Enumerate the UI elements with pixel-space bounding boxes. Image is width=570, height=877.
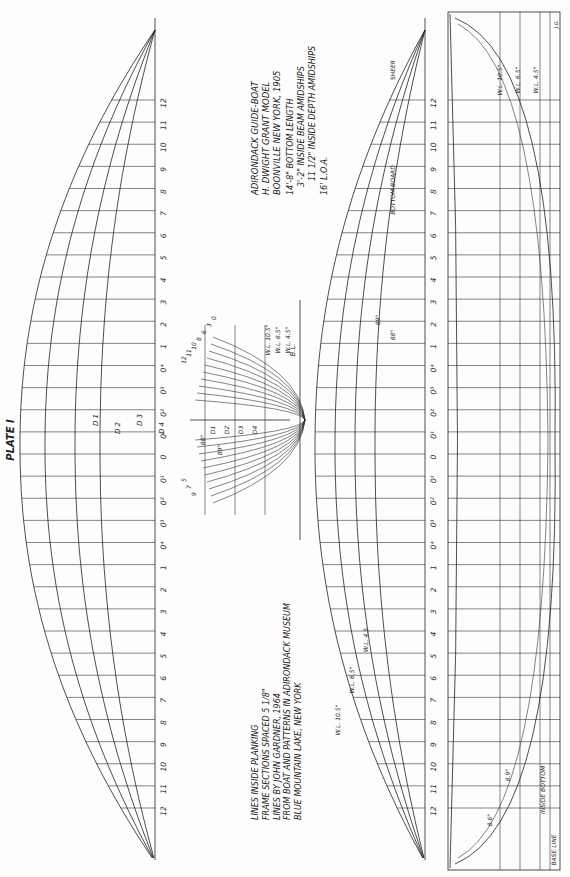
station-label: 4 [429, 631, 438, 636]
station-label: 11 [159, 120, 168, 130]
diagonal-label: D4 [251, 426, 258, 435]
angle-label: 8.6° [486, 814, 493, 827]
station-label: 10 [159, 142, 168, 152]
station-label: 7 [159, 211, 168, 216]
diagonal-label: D 3 [136, 414, 144, 426]
station-label: 0³ [159, 387, 168, 395]
station-label: 5 [429, 255, 438, 260]
waterline-label: W.L. 4.5" [532, 66, 539, 93]
title-line: 11 1/2" INSIDE DEPTH AMIDSHIPS [308, 46, 317, 181]
station-label: 10 [429, 142, 438, 152]
station-label: 4 [429, 277, 438, 282]
waterline-label: W.L. 10.5" [264, 324, 271, 355]
station-label: 11 [429, 784, 438, 794]
waterline-label: W.L. 10.5" [334, 704, 341, 735]
title-line: H. DWIGHT GRANT MODEL [261, 81, 271, 195]
station-label: 10 [429, 762, 438, 772]
notes-line: FROM BOAT AND PATTERNS IN ADIRONDACK MUS… [283, 603, 292, 820]
station-label: 4 [159, 277, 168, 282]
station-label: 12 [159, 98, 168, 108]
station-label: 1 [159, 565, 168, 570]
profile-frame [448, 12, 560, 870]
station-label: 6 [429, 233, 438, 238]
station-label: 5 [159, 654, 168, 659]
station-label: 0¹ [159, 431, 168, 439]
diagonal-label: D2 [223, 426, 230, 435]
station-label: 0³ [429, 519, 438, 527]
body-station-label: 6 [200, 330, 207, 334]
station-label: 8 [429, 189, 438, 194]
station-label: 0⁴ [429, 365, 438, 373]
station-label: 7 [159, 698, 168, 703]
base-line-label: BASE LINE [550, 834, 557, 865]
waterline-curve [375, 30, 425, 858]
station-label: 6 [159, 676, 168, 681]
station-label: 12 [429, 98, 438, 108]
angle-label: 8.9° [504, 769, 511, 782]
angle-label: 88° [199, 435, 206, 446]
station-label: 0¹ [429, 475, 438, 483]
station-label: 0² [429, 497, 438, 505]
station-label: 0³ [159, 519, 168, 527]
notes-block: LINES INSIDE PLANKING FRAME SECTIONS SPA… [251, 603, 303, 820]
lines-drawing-sheet: PLATE I D 1D 2D 3D 4 D1D2D3D488°89°W.L. … [0, 0, 570, 877]
station-label: 2 [429, 587, 438, 592]
body-station-label: 5 [180, 478, 187, 482]
angle-label: 88° [389, 330, 396, 341]
sheer-line [450, 14, 458, 868]
station-label: 7 [429, 211, 438, 216]
body-plan: D1D2D3D488°89°W.L. 10.5"W.L. 6.5"W.L. 4.… [180, 300, 305, 540]
station-label: 0² [429, 409, 438, 417]
station-label: 0⁴ [429, 542, 438, 550]
half-breadth-plan-upper: D 1D 2D 3D 4 [20, 18, 166, 860]
station-label: 2 [429, 322, 438, 327]
station-label: 0⁴ [159, 365, 168, 373]
station-label: 0 [159, 454, 168, 459]
body-station-label: 7 [185, 485, 192, 489]
station-label: 6 [429, 676, 438, 681]
station-label: 0³ [429, 387, 438, 395]
station-label: 4 [159, 631, 168, 636]
body-station-label: 0 [210, 316, 217, 320]
notes-line: LINES BY JOHN GARDNER, 1964 [273, 693, 282, 820]
station-label: 2 [159, 587, 168, 592]
bottom-board-label: BOTTOM BOARD [389, 165, 396, 215]
body-station-label: 10 [190, 342, 197, 350]
notes-line: BLUE MOUNTAIN LAKE, NEW YORK [294, 682, 303, 820]
diagonal-label: D 2 [114, 421, 122, 434]
diagonal-label: D1 [209, 426, 216, 434]
station-label: 11 [429, 120, 438, 130]
inside-bottom-label: INSIDE BOTTOM [539, 765, 546, 814]
title-line: BOONVILLE NEW YORK, 1905 [272, 70, 282, 195]
baseline-label: B.L. [289, 343, 297, 356]
title-line: 3'-2" INSIDE BEAM AMIDSHIPS [297, 66, 306, 187]
waterline-label: W.L. 6.5" [348, 666, 355, 693]
station-label: 1 [429, 344, 438, 349]
inside-bottom-curve [458, 24, 548, 858]
initials-label: J.G. [553, 20, 559, 30]
sheer-label: SHEER [389, 60, 396, 80]
station-label: 3 [429, 609, 438, 614]
station-label: 5 [429, 654, 438, 659]
station-label: 5 [159, 255, 168, 260]
station-label: 1 [429, 565, 438, 570]
angle-label: 89° [216, 445, 223, 456]
station-label: 10 [159, 762, 168, 772]
body-station-label: 9 [190, 492, 197, 496]
diagonal-curve [75, 30, 155, 858]
body-station-label: 8 [195, 337, 202, 341]
title-line: ADIRONDACK GUIDE-BOAT [250, 81, 260, 196]
title-block: ADIRONDACK GUIDE-BOAT H. DWIGHT GRANT MO… [250, 46, 329, 196]
diagonal-label: D 1 [92, 414, 100, 426]
station-label: 12 [159, 806, 168, 816]
waterline-label: W.L. 4.5 [362, 628, 369, 652]
station-label: 0¹ [429, 431, 438, 439]
body-station-label: 3 [205, 323, 212, 327]
waterline-curve [335, 30, 425, 858]
station-label: 2 [159, 322, 168, 327]
station-label: 8 [159, 189, 168, 194]
station-label: 3 [159, 609, 168, 614]
waterline-label: W.L. 6.5" [274, 326, 281, 353]
station-label: 3 [159, 300, 168, 305]
station-label: 7 [429, 698, 438, 703]
